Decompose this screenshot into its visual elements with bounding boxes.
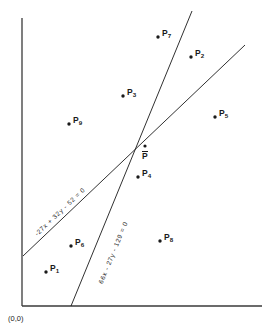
- data-point-label-subscript: 5: [225, 112, 228, 119]
- regression-lines-group: [23, 11, 245, 306]
- data-point-label: P3: [127, 87, 136, 97]
- data-point-marker: [189, 55, 192, 58]
- data-point-label-subscript: 8: [170, 236, 173, 243]
- data-point-label-subscript: 1: [56, 267, 59, 274]
- data-point-label: P6: [75, 237, 84, 247]
- data-point-marker: [69, 244, 72, 247]
- data-point-label-subscript: 6: [81, 241, 84, 248]
- data-point-label-subscript: 3: [133, 91, 136, 98]
- shallow-regression-line: [23, 45, 245, 256]
- data-point-marker: [158, 239, 161, 242]
- data-point-label-subscript: 9: [79, 119, 82, 126]
- mean-point-label-text: P: [142, 151, 148, 161]
- data-point-markers-group: [44, 35, 216, 273]
- data-point-label-subscript: 4: [148, 172, 151, 179]
- data-point-label: P8: [164, 232, 173, 242]
- steep-regression-line: [71, 11, 192, 306]
- data-point-label-letter: P: [50, 263, 56, 273]
- mean-point-marker: [143, 144, 146, 147]
- plot-canvas: [0, 0, 270, 334]
- scatter-plot-figure: P1P2P3P4P5P6P7P8P9 P -27x + 32y - 52 = 0…: [0, 0, 270, 334]
- data-point-marker: [121, 94, 124, 97]
- data-point-marker: [136, 175, 139, 178]
- data-point-label-subscript: 7: [168, 32, 171, 39]
- data-point-label-letter: P: [162, 28, 168, 38]
- data-point-label-letter: P: [73, 115, 79, 125]
- data-point-label: P2: [195, 48, 204, 58]
- data-point-label: P7: [162, 28, 171, 38]
- data-point-label-letter: P: [142, 168, 148, 178]
- data-point-label-letter: P: [195, 48, 201, 58]
- data-point-label-letter: P: [219, 108, 225, 118]
- data-point-label: P1: [50, 263, 59, 273]
- data-point-marker: [156, 35, 159, 38]
- data-point-label: P5: [219, 108, 228, 118]
- data-point-label: P9: [73, 115, 82, 125]
- mean-point-label: P: [142, 151, 148, 161]
- data-point-label-subscript: 2: [201, 52, 204, 59]
- data-point-marker: [213, 115, 216, 118]
- origin-label: (0,0): [8, 314, 23, 323]
- data-point-marker: [44, 270, 47, 273]
- data-point-label-letter: P: [127, 87, 133, 97]
- data-point-label: P4: [142, 168, 151, 178]
- data-point-label-letter: P: [164, 232, 170, 242]
- data-point-label-letter: P: [75, 237, 81, 247]
- data-point-marker: [67, 122, 70, 125]
